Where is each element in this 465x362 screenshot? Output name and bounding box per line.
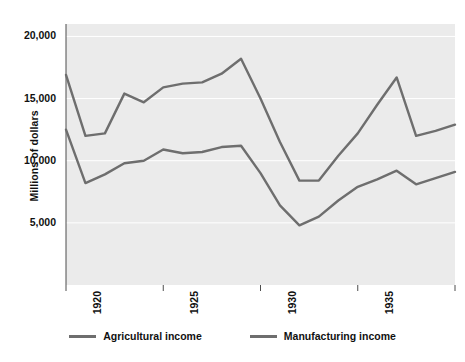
chart-legend: Agricultural incomeManufacturing income [0,330,465,342]
legend-line-swatch [250,335,277,338]
chart-figure: Millions of dollars 5,00010,00015,00020,… [0,0,465,362]
plot-background [66,24,455,285]
y-tick-label: 10,000 [12,155,56,166]
x-tick-label: 1920 [91,291,103,331]
legend-label: Agricultural income [103,330,202,342]
legend-line-swatch [69,335,96,338]
y-axis-tick-labels: 5,00010,00015,00020,000 [0,0,56,362]
legend-label: Manufacturing income [284,330,396,342]
x-tick-label: 1930 [286,291,298,331]
legend-entry[interactable]: Manufacturing income [250,330,396,342]
x-tick-label: 1935 [383,291,395,331]
legend-entry[interactable]: Agricultural income [69,330,202,342]
y-tick-label: 15,000 [12,93,56,104]
y-tick-label: 20,000 [12,30,56,41]
x-tick-label: 1925 [188,291,200,331]
y-tick-label: 5,000 [12,217,56,228]
plot-area [0,0,465,362]
